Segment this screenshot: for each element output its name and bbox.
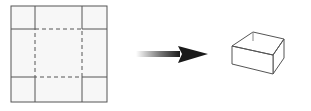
open-box <box>232 32 284 74</box>
arrow-shaft <box>136 51 180 57</box>
box-net <box>11 6 107 102</box>
transform-arrow <box>136 46 208 63</box>
arrow-head-icon <box>178 46 208 63</box>
net-outer-square <box>11 6 107 102</box>
diagram-canvas <box>0 0 311 111</box>
box-right-side <box>273 39 284 74</box>
